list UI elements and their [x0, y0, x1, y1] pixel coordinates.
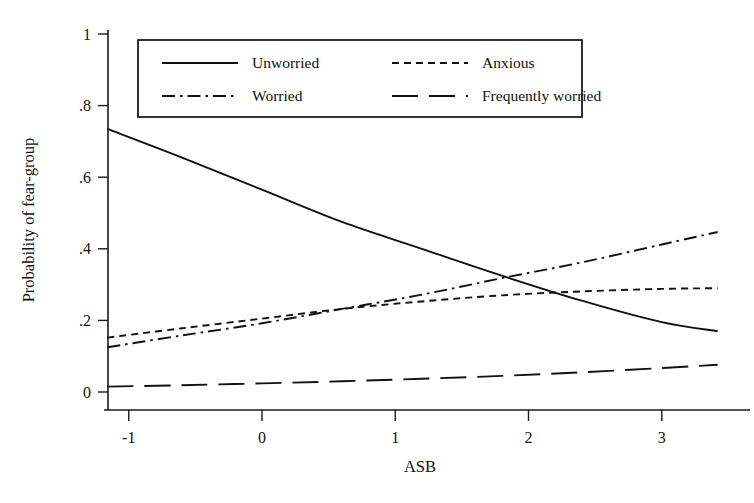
- x-tick-label: 1: [391, 429, 399, 446]
- x-tick-label: 3: [658, 429, 666, 446]
- y-tick-label: .4: [79, 240, 91, 257]
- line-chart-canvas: 0.2.4.6.81 -10123 ASB Probability of fea…: [0, 0, 754, 503]
- legend-label-unworried: Unworried: [252, 54, 319, 71]
- legend-label-frequently-worried: Frequently worried: [482, 87, 601, 104]
- y-tick-group: 0.2.4.6.81: [79, 26, 108, 401]
- x-tick-label: 0: [258, 429, 266, 446]
- legend-border: [138, 40, 582, 117]
- y-tick-label: 1: [83, 26, 91, 43]
- y-tick-label: 0: [83, 384, 91, 401]
- series-group: [107, 129, 717, 387]
- x-tick-label: 2: [525, 429, 533, 446]
- x-tick-group: -10123: [122, 410, 666, 446]
- x-tick-label: -1: [122, 429, 135, 446]
- y-tick-label: .8: [79, 97, 91, 114]
- legend-label-worried: Worried: [252, 87, 303, 104]
- legend-label-anxious: Anxious: [482, 54, 535, 71]
- chart-legend: UnworriedAnxiousWorriedFrequently worrie…: [138, 40, 601, 117]
- series-line-frequently-worried: [107, 365, 717, 387]
- x-axis-title: ASB: [404, 457, 436, 476]
- y-tick-label: .2: [79, 312, 91, 329]
- series-line-unworried: [107, 129, 717, 331]
- y-axis-title: Probability of fear-group: [19, 138, 38, 303]
- y-tick-label: .6: [79, 169, 91, 186]
- chart-figure: 0.2.4.6.81 -10123 ASB Probability of fea…: [0, 0, 754, 503]
